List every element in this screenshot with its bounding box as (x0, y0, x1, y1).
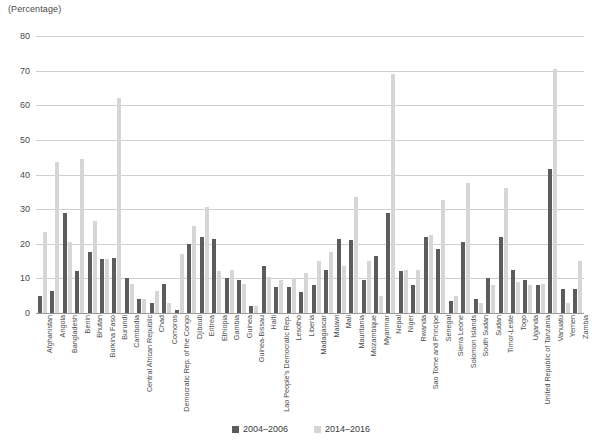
x-axis-category-label: Guinea (245, 315, 254, 338)
bar-group (484, 36, 496, 313)
bar (155, 291, 159, 314)
bar-group (273, 36, 285, 313)
bar-group (459, 36, 471, 313)
y-axis-unit-label: (Percentage) (8, 4, 61, 14)
bar-group (547, 36, 559, 313)
x-axis-category-label: Afghanistan (45, 315, 54, 353)
bar-group (360, 36, 372, 313)
y-axis-tick-label: 20 (20, 239, 30, 249)
legend-label: 2014–2016 (325, 424, 370, 434)
bar (63, 213, 67, 313)
bar (112, 258, 116, 313)
bar (68, 242, 72, 313)
x-axis-category-label: Benin (83, 315, 92, 333)
x-axis-category-label: Uganda (531, 315, 540, 340)
bar-group (422, 36, 434, 313)
x-axis-category-label: Central African Republic (145, 315, 154, 392)
x-axis-category-label: Comoros (170, 315, 179, 344)
bar (80, 159, 84, 313)
bar-group (248, 36, 260, 313)
bar-group (260, 36, 272, 313)
bar-group (161, 36, 173, 313)
bar-group (559, 36, 571, 313)
y-axis-tick-label: 80 (20, 31, 30, 41)
bar-group (372, 36, 384, 313)
bar (262, 266, 266, 313)
bar (337, 239, 341, 313)
bar (205, 207, 209, 313)
bar-group (235, 36, 247, 313)
bar (287, 287, 291, 313)
x-axis-category-label: Myanmar (382, 315, 391, 345)
bar (504, 188, 508, 313)
bar (162, 284, 166, 313)
bar (548, 169, 552, 313)
bar-group (48, 36, 60, 313)
x-axis-category-label: Malawi (332, 315, 341, 337)
bar (404, 270, 408, 313)
bar (362, 280, 366, 313)
y-axis-tick-label: 50 (20, 135, 30, 145)
legend-swatch-icon (314, 426, 321, 433)
x-axis-category-label: Solomon Islands (469, 315, 478, 368)
bar (43, 232, 47, 313)
bar (192, 226, 196, 313)
bar-group (148, 36, 160, 313)
bar (274, 287, 278, 313)
bar-group (198, 36, 210, 313)
bar (175, 310, 179, 313)
bar (573, 289, 577, 313)
bar (225, 278, 229, 313)
bar (553, 69, 557, 313)
bar (249, 306, 253, 313)
y-axis-tick-label: 70 (20, 66, 30, 76)
bar (150, 303, 154, 313)
bar-group (447, 36, 459, 313)
bar (187, 244, 191, 313)
bar (317, 261, 321, 313)
bar (449, 301, 453, 313)
bar (117, 98, 121, 313)
x-axis-category-label: Niger (406, 315, 415, 332)
bar (329, 252, 333, 313)
x-axis-category-label: Sao Tome and Principe (431, 315, 440, 389)
bar (324, 270, 328, 313)
bar-group (285, 36, 297, 313)
bar (237, 280, 241, 313)
bar (55, 162, 59, 313)
bar-group (298, 36, 310, 313)
bar (379, 296, 383, 313)
legend-swatch-icon (232, 426, 239, 433)
bar (523, 280, 527, 313)
bar (416, 270, 420, 313)
bar (254, 306, 258, 313)
bar (230, 270, 234, 313)
x-axis-category-label: Togo (519, 315, 528, 331)
x-axis-category-label: Zambia (581, 315, 590, 339)
bar-group (472, 36, 484, 313)
legend-item-2004-2006: 2004–2006 (232, 424, 288, 434)
bar (386, 213, 390, 313)
y-axis-tick-label: 0 (25, 308, 30, 318)
bar (242, 284, 246, 313)
bar (354, 197, 358, 313)
bar (436, 249, 440, 313)
bar-group (347, 36, 359, 313)
bar (88, 252, 92, 313)
x-axis-category-label: Guinea-Bissau (257, 315, 266, 362)
bar-group (210, 36, 222, 313)
x-axis-category-label: Sudan (494, 315, 503, 336)
bar (528, 285, 532, 313)
x-axis-category-labels: AfghanistanAngolaBangladeshBeninBhutanBu… (36, 315, 584, 415)
bar (267, 277, 271, 313)
x-axis-category-label: Burkina Faso (108, 315, 117, 357)
bar (75, 271, 79, 313)
x-axis-category-label: South Sudan (481, 315, 490, 357)
x-axis-category-label: Democratic Rep. of the Congo (182, 315, 191, 412)
bar-group (322, 36, 334, 313)
bar (105, 259, 109, 313)
x-axis-category-label: Eritrea (207, 315, 216, 336)
x-axis-category-label: Madagascar (319, 315, 328, 355)
x-axis-category-label: Ethiopia (220, 315, 229, 341)
bar (536, 285, 540, 313)
